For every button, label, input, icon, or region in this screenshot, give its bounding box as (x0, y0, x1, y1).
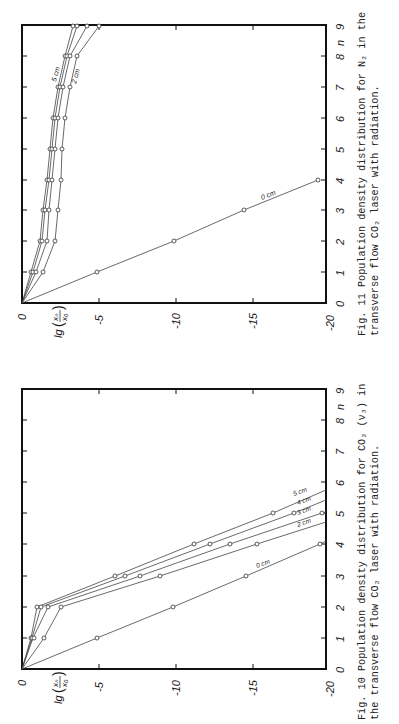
svg-text:0: 0 (334, 300, 346, 307)
figure-10-caption: Fig. 10 Population density distribution … (356, 384, 382, 720)
svg-text:(: ( (50, 322, 66, 327)
lg-axis-ticks (99, 25, 253, 303)
caption-line-1: Fig. 10 Population density distribution … (356, 384, 369, 720)
svg-text:7: 7 (334, 448, 346, 455)
series-4cm (22, 500, 326, 669)
lg-axis-label: lg ( xₙ x₀ ) (50, 671, 69, 704)
svg-text:n: n (334, 404, 346, 410)
svg-text:7: 7 (334, 84, 346, 91)
series-3cm (22, 512, 326, 669)
series-0cm (22, 180, 318, 303)
svg-text:0: 0 (16, 679, 28, 686)
series-lines (22, 26, 318, 303)
svg-text:5: 5 (334, 510, 346, 517)
paper-page: 5 cm 2 cm 0 cm 0 -5 -10 -15 -20 lg ( xₙ … (0, 0, 399, 724)
svg-text:(: ( (50, 688, 66, 693)
svg-text:5: 5 (334, 146, 346, 153)
svg-text:n: n (334, 40, 346, 46)
curve-label-0cm: 0 cm (260, 189, 277, 201)
series-5cm (22, 490, 326, 669)
lg-axis-ticks (99, 389, 253, 669)
lg-axis-label: lg ( xₙ x₀ ) (50, 305, 69, 338)
svg-text:x₀: x₀ (60, 679, 69, 688)
svg-text:2: 2 (334, 239, 346, 246)
series-2cm (22, 522, 326, 669)
svg-text:9: 9 (334, 24, 346, 30)
curve-label-0cm: 0 cm (255, 557, 271, 569)
svg-text:-20: -20 (324, 680, 336, 697)
caption-line-2: transverse flow CO₂ laser with radiation… (369, 12, 382, 336)
svg-text:): ) (50, 305, 66, 310)
svg-text:xₙ: xₙ (51, 313, 60, 322)
svg-text:2: 2 (334, 605, 346, 612)
series-lines (22, 490, 326, 669)
plot-frame (22, 389, 326, 669)
svg-text:-15: -15 (247, 679, 259, 696)
n-tick-labels: 0 1 2 3 4 5 6 7 8 n 9 (334, 24, 346, 307)
curve-label-2cm: 2 cm (295, 516, 312, 528)
curve-label-3cm: 3 cm (296, 504, 312, 516)
series-4cm (22, 26, 77, 303)
svg-text:4: 4 (334, 178, 346, 184)
lg-tick-0: 0 (16, 313, 28, 320)
svg-text:x₀: x₀ (60, 313, 69, 322)
series-markers (29, 511, 324, 640)
svg-text:6: 6 (334, 115, 346, 122)
lg-tick-10: -10 (170, 312, 182, 329)
curve-labels: 5 cm 4 cm 3 cm 2 cm 0 cm (255, 485, 312, 569)
lg-tick-15: -15 (247, 312, 259, 329)
caption-line-2: the transverse flow CO₂ laser with radia… (369, 384, 382, 720)
svg-text:3: 3 (334, 207, 346, 214)
svg-text:1: 1 (334, 270, 346, 276)
caption-line-1: Fig. 11 Population density distribution … (356, 12, 369, 336)
series-markers (29, 24, 320, 274)
curve-label-4cm: 4 cm (296, 494, 312, 506)
svg-text:-10: -10 (170, 679, 182, 696)
svg-text:): ) (50, 671, 66, 676)
curve-label-2cm: 2 cm (70, 68, 81, 86)
svg-text:4: 4 (334, 542, 346, 548)
svg-text:xₙ: xₙ (51, 679, 60, 688)
svg-text:0: 0 (334, 666, 346, 673)
svg-text:lg: lg (52, 329, 64, 338)
lg-tick-20: -20 (324, 314, 336, 331)
lg-tick-5: -5 (93, 314, 105, 325)
svg-text:3: 3 (334, 573, 346, 580)
svg-text:8: 8 (334, 53, 346, 60)
figure-11-caption: Fig. 11 Population density distribution … (356, 12, 382, 336)
svg-text:9: 9 (334, 388, 346, 394)
figure-11-plot: 5 cm 2 cm 0 cm 0 -5 -10 -15 -20 lg ( xₙ … (0, 0, 399, 340)
svg-text:1: 1 (334, 636, 346, 642)
figure-10-plot: 5 cm 4 cm 3 cm 2 cm 0 cm 0 -5 -10 -15 -2… (0, 364, 399, 724)
svg-text:6: 6 (334, 479, 346, 486)
svg-text:lg: lg (52, 695, 64, 704)
svg-text:-5: -5 (93, 681, 105, 692)
svg-text:8: 8 (334, 417, 346, 424)
n-tick-labels: 0 1 2 3 4 5 6 7 8 n 9 (334, 388, 346, 673)
